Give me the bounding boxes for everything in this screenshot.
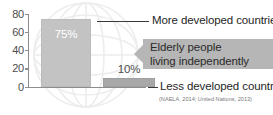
- y-tick-mark: [25, 68, 29, 69]
- y-tick-label: 40: [12, 45, 24, 56]
- leader-line-less-developed: [148, 87, 158, 88]
- bar-less-developed[interactable]: 10%: [103, 78, 155, 87]
- y-tick-label: 0: [18, 81, 24, 92]
- callout-line-1: Elderly people: [150, 41, 272, 55]
- source-citation: (NAELA, 2014; United Nations, 2013): [159, 97, 252, 103]
- bar-value-label: 75%: [42, 29, 90, 41]
- y-tick-label: 20: [12, 63, 24, 74]
- y-tick-mark: [25, 87, 29, 88]
- y-tick-mark: [25, 50, 29, 51]
- bar-more-developed[interactable]: 75%: [41, 19, 91, 87]
- y-tick-mark: [25, 14, 29, 15]
- callout-text: Elderly people living independently: [150, 41, 272, 68]
- y-tick-mark: [25, 32, 29, 33]
- x-axis-line: [28, 87, 146, 88]
- callout-annotation: Elderly people living independently: [134, 39, 273, 69]
- y-tick-label: 60: [12, 27, 24, 38]
- callout-pointer-icon: [134, 45, 143, 63]
- category-label-less-developed: Less developed countries: [160, 81, 273, 93]
- chart-figure: 80 60 40 20 0 75% 10% More developed cou…: [0, 0, 273, 115]
- plot-area: 80 60 40 20 0 75% 10%: [28, 14, 146, 88]
- category-label-more-developed: More developed countries: [152, 15, 273, 27]
- callout-line-2: living independently: [150, 55, 272, 69]
- leader-line-more-developed: [97, 21, 149, 22]
- y-tick-label: 80: [12, 9, 24, 20]
